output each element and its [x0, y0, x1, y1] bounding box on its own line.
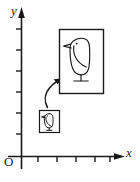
curved-arrow-path [45, 81, 57, 108]
y-axis-ticks [16, 29, 22, 134]
large-bird-frame [60, 30, 104, 94]
x-axis-arrowhead [114, 153, 125, 160]
x-axis-label: x [126, 146, 132, 159]
y-axis-label: y [11, 4, 17, 17]
large-bird-enlargement [60, 30, 104, 94]
large-bird-eye [76, 43, 78, 45]
small-bird-thumbnail [40, 111, 60, 133]
y-axis-arrowhead [18, 7, 25, 18]
figure-canvas: y x O [0, 0, 140, 182]
small-bird-eye [47, 115, 48, 116]
diagram-illustration [0, 0, 140, 182]
origin-label: O [4, 155, 13, 168]
x-axis-ticks [38, 157, 110, 163]
